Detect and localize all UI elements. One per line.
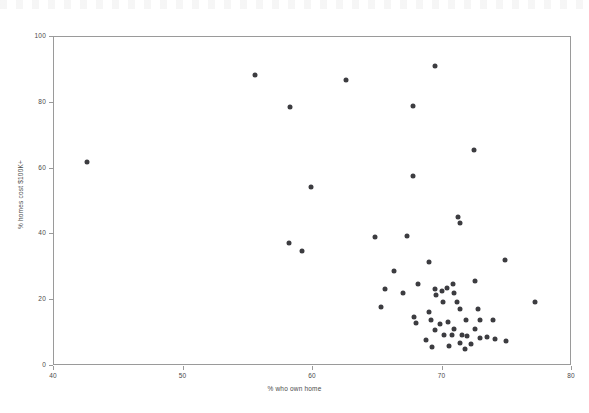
x-axis-title: % who own home	[0, 385, 589, 392]
data-point	[449, 332, 454, 337]
data-point	[473, 326, 478, 331]
data-point	[411, 173, 416, 178]
x-tick-mark	[312, 366, 313, 370]
data-point	[343, 78, 348, 83]
data-point	[532, 299, 537, 304]
y-tick-mark	[49, 168, 53, 169]
data-point	[308, 184, 313, 189]
x-tick-label: 40	[38, 372, 68, 379]
data-point	[475, 307, 480, 312]
data-point	[452, 290, 457, 295]
data-point	[462, 347, 467, 352]
data-point	[382, 287, 387, 292]
data-point	[457, 307, 462, 312]
data-point	[433, 328, 438, 333]
data-point	[504, 339, 509, 344]
data-point	[444, 285, 449, 290]
data-point	[471, 148, 476, 153]
data-point	[438, 322, 443, 327]
data-point	[429, 317, 434, 322]
x-tick-label: 80	[556, 372, 586, 379]
y-tick-label: 60	[24, 164, 46, 171]
y-tick-label: 0	[24, 361, 46, 368]
data-point	[469, 342, 474, 347]
y-tick-mark	[49, 299, 53, 300]
x-tick-mark	[183, 366, 184, 370]
data-point	[404, 233, 409, 238]
x-tick-mark	[442, 366, 443, 370]
x-tick-mark	[53, 366, 54, 370]
data-point	[456, 214, 461, 219]
data-point	[484, 335, 489, 340]
data-point	[430, 344, 435, 349]
data-point	[253, 73, 258, 78]
data-point	[433, 287, 438, 292]
data-point	[457, 340, 462, 345]
data-point	[439, 288, 444, 293]
data-point	[433, 63, 438, 68]
data-point	[287, 104, 292, 109]
data-point	[478, 318, 483, 323]
data-point	[442, 333, 447, 338]
cropped-caption-artifact	[0, 0, 589, 9]
data-point	[373, 234, 378, 239]
data-point	[455, 299, 460, 304]
x-tick-label: 60	[297, 372, 327, 379]
data-point	[452, 326, 457, 331]
data-point	[445, 320, 450, 325]
data-point	[411, 103, 416, 108]
data-point	[502, 257, 507, 262]
data-point	[84, 159, 89, 164]
data-points-layer	[53, 36, 571, 365]
x-tick-label: 70	[427, 372, 457, 379]
data-point	[457, 220, 462, 225]
data-point	[426, 310, 431, 315]
data-point	[492, 337, 497, 342]
data-point	[447, 343, 452, 348]
data-point	[423, 338, 428, 343]
data-point	[412, 315, 417, 320]
data-point	[416, 282, 421, 287]
data-point	[378, 305, 383, 310]
y-tick-label: 20	[24, 295, 46, 302]
data-point	[400, 291, 405, 296]
data-point	[465, 334, 470, 339]
y-tick-mark	[49, 36, 53, 37]
y-axis-title: % homes cost $100K+	[17, 115, 24, 275]
data-point	[286, 241, 291, 246]
x-tick-mark	[571, 366, 572, 370]
data-point	[413, 321, 418, 326]
y-tick-label: 80	[24, 98, 46, 105]
y-tick-label: 100	[24, 32, 46, 39]
y-tick-label: 40	[24, 229, 46, 236]
data-point	[478, 336, 483, 341]
x-tick-label: 50	[168, 372, 198, 379]
data-point	[440, 299, 445, 304]
data-point	[491, 318, 496, 323]
data-point	[434, 292, 439, 297]
data-point	[451, 282, 456, 287]
data-point	[391, 269, 396, 274]
data-point	[473, 279, 478, 284]
data-point	[299, 248, 304, 253]
y-tick-mark	[49, 233, 53, 234]
y-tick-mark	[49, 102, 53, 103]
data-point	[426, 260, 431, 265]
data-point	[464, 317, 469, 322]
scatter-plot-figure: 020406080100 4050607080 % who own home %…	[0, 0, 589, 413]
